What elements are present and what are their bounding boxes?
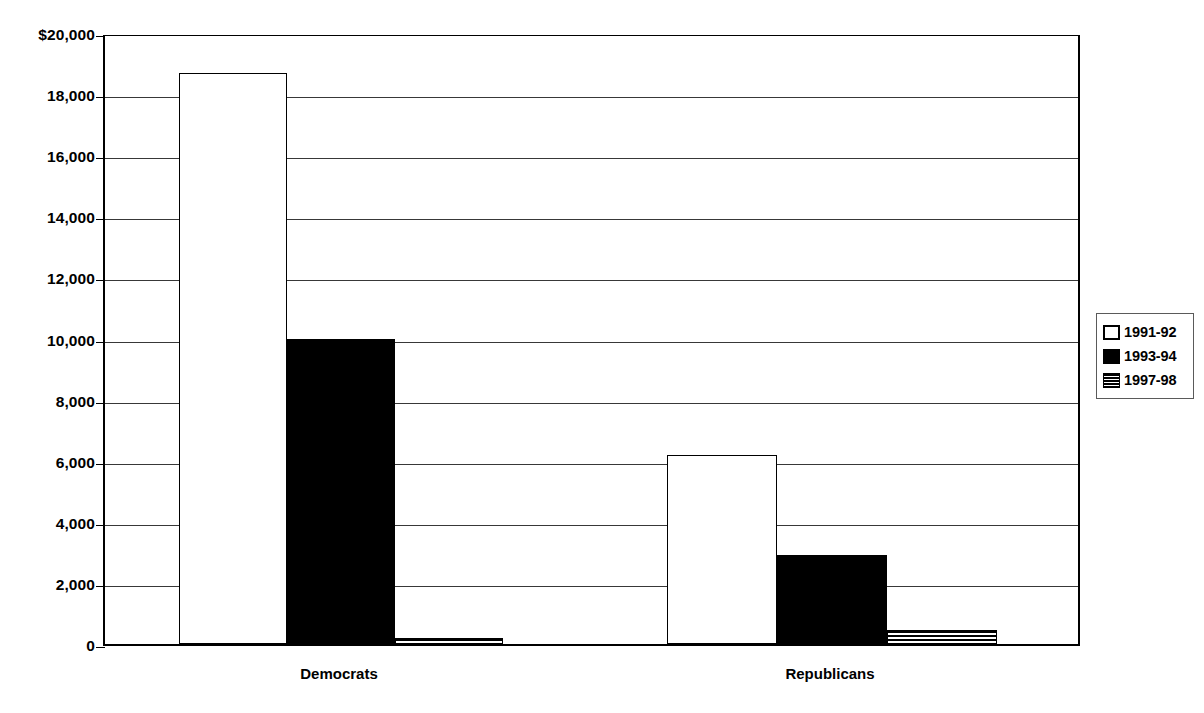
y-axis-label-18000: 18,000 [0, 87, 95, 105]
plot-area [103, 35, 1080, 646]
y-axis-label-8000: 8,000 [0, 393, 95, 411]
y-tick-0 [96, 647, 105, 648]
legend-swatch-striped-icon [1103, 373, 1120, 388]
bar-chart: 02,0004,0006,0008,00010,00012,00014,0001… [0, 0, 1204, 713]
bar-democrats-1991-92 [179, 73, 287, 644]
y-axis-label-12000: 12,000 [0, 270, 95, 288]
y-axis-label-10000: 10,000 [0, 332, 95, 350]
y-tick-20000 [96, 36, 105, 37]
y-tick-18000 [96, 97, 105, 98]
legend-label: 1991-92 [1124, 324, 1177, 340]
legend-swatch-black-icon [1103, 349, 1120, 364]
y-tick-14000 [96, 219, 105, 220]
y-axis-label-6000: 6,000 [0, 454, 95, 472]
legend-item-1991-92[interactable]: 1991-92 [1103, 320, 1188, 344]
bar-republicans-1991-92 [667, 455, 777, 644]
y-tick-12000 [96, 280, 105, 281]
bar-democrats-1993-94 [287, 339, 395, 645]
y-tick-16000 [96, 158, 105, 159]
x-axis-label-democrats: Democrats [300, 665, 378, 682]
y-tick-2000 [96, 586, 105, 587]
legend-label: 1993-94 [1124, 348, 1177, 364]
y-tick-8000 [96, 403, 105, 404]
x-axis-label-republicans: Republicans [785, 665, 874, 682]
y-axis-label-0: 0 [0, 637, 95, 655]
legend-item-1993-94[interactable]: 1993-94 [1103, 344, 1188, 368]
y-tick-6000 [96, 464, 105, 465]
bar-democrats-1997-98 [395, 638, 503, 644]
y-axis-label-14000: 14,000 [0, 209, 95, 227]
legend-label: 1997-98 [1124, 372, 1177, 388]
legend[interactable]: 1991-921993-941997-98 [1096, 313, 1194, 399]
y-axis-label-2000: 2,000 [0, 576, 95, 594]
y-tick-4000 [96, 525, 105, 526]
y-axis-label-4000: 4,000 [0, 515, 95, 533]
y-axis-label-20000: $20,000 [0, 26, 95, 44]
y-tick-10000 [96, 342, 105, 343]
y-axis-label-16000: 16,000 [0, 148, 95, 166]
legend-swatch-white-icon [1103, 325, 1120, 340]
legend-item-1997-98[interactable]: 1997-98 [1103, 368, 1188, 392]
bar-republicans-1997-98 [887, 630, 997, 644]
bar-republicans-1993-94 [777, 555, 887, 644]
